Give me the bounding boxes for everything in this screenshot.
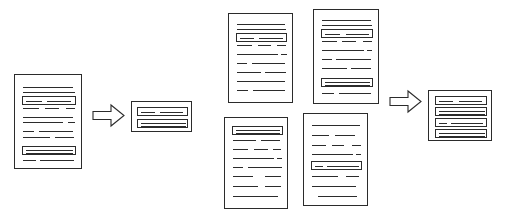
highlighted-row <box>137 119 188 128</box>
text-line <box>261 140 280 141</box>
text-line <box>277 45 286 46</box>
text-line <box>233 140 256 141</box>
text-line <box>312 125 360 126</box>
text-line <box>351 68 371 69</box>
highlighted-row <box>435 96 487 105</box>
multi-source-document-bottom-right[interactable] <box>303 113 368 206</box>
text-line <box>336 59 371 60</box>
highlighted-row <box>232 126 283 135</box>
highlighted-row <box>435 107 487 116</box>
text-line <box>23 108 39 109</box>
text-line <box>233 149 248 150</box>
diagram-canvas: Document summarization flow <box>0 0 510 223</box>
text-line <box>265 72 286 73</box>
text-line <box>23 122 63 123</box>
text-line <box>23 160 36 161</box>
text-line <box>277 158 282 159</box>
highlighted-row <box>137 107 188 116</box>
text-line <box>68 122 75 123</box>
text-line <box>335 135 355 136</box>
text-line <box>281 54 287 55</box>
text-line <box>233 167 243 168</box>
text-line <box>318 196 357 197</box>
text-line <box>233 186 258 187</box>
highlighted-text-line <box>141 123 186 124</box>
text-line <box>273 149 281 150</box>
text-line <box>237 45 252 46</box>
text-line <box>237 29 286 30</box>
highlighted-row <box>22 146 76 155</box>
highlighted-text-line <box>325 85 370 86</box>
text-line <box>352 145 361 146</box>
highlighted-text-line <box>439 123 447 124</box>
text-line <box>252 63 285 64</box>
text-line <box>237 72 261 73</box>
text-line <box>23 87 73 88</box>
text-line <box>312 154 353 155</box>
text-line <box>312 135 329 136</box>
text-line <box>312 145 326 146</box>
text-line <box>356 154 361 155</box>
text-line <box>322 93 334 94</box>
text-line <box>254 149 268 150</box>
text-line <box>265 176 281 177</box>
highlighted-row <box>22 96 76 105</box>
text-line <box>237 90 248 91</box>
multi-source-document-top-left[interactable] <box>228 13 293 103</box>
text-line <box>322 41 337 42</box>
text-line <box>322 20 371 21</box>
text-line <box>23 137 50 138</box>
highlighted-text-line <box>160 112 183 113</box>
text-line <box>363 41 372 42</box>
text-line <box>55 137 74 138</box>
text-line <box>265 186 281 187</box>
text-line <box>258 45 271 46</box>
text-line <box>233 196 278 197</box>
text-line <box>66 108 75 109</box>
highlighted-text-line <box>346 34 369 35</box>
text-line <box>23 92 75 93</box>
highlighted-text-line <box>439 133 485 134</box>
arrow-multi-to-summary <box>389 89 422 114</box>
highlighted-row <box>321 29 373 38</box>
highlighted-text-line <box>141 126 186 127</box>
highlighted-text-line <box>259 38 283 39</box>
highlighted-row <box>321 78 373 87</box>
highlighted-text-line <box>327 166 359 167</box>
arrow-single-to-summary <box>92 103 125 128</box>
highlighted-text-line <box>459 101 482 102</box>
text-line <box>322 59 332 60</box>
highlighted-text-line <box>439 114 485 115</box>
text-line <box>23 117 73 118</box>
highlighted-row <box>435 118 487 127</box>
text-line <box>322 50 364 51</box>
multi-document-summary[interactable] <box>428 90 492 141</box>
text-line <box>237 63 247 64</box>
highlighted-text-line <box>26 101 42 102</box>
highlighted-text-line <box>451 123 483 124</box>
highlighted-text-line <box>240 38 254 39</box>
text-line <box>233 176 253 177</box>
text-line <box>312 186 356 187</box>
single-document-summary[interactable] <box>131 101 192 132</box>
highlighted-text-line <box>236 130 280 131</box>
multi-source-document-top-right[interactable] <box>313 9 379 104</box>
highlighted-text-line <box>141 112 155 113</box>
text-line <box>237 54 278 55</box>
text-line <box>322 25 372 26</box>
text-line <box>23 131 34 132</box>
text-line <box>342 41 356 42</box>
highlighted-text-line <box>439 111 485 112</box>
text-line <box>237 24 285 25</box>
highlighted-text-line <box>439 101 453 102</box>
text-line <box>253 90 285 91</box>
highlighted-text-line <box>26 150 73 151</box>
source-document[interactable] <box>14 74 82 169</box>
text-line <box>237 81 285 82</box>
text-line <box>332 145 344 146</box>
text-line <box>233 158 274 159</box>
text-line <box>367 50 372 51</box>
highlighted-row <box>236 33 287 42</box>
text-line <box>40 160 74 161</box>
multi-source-document-bottom-left[interactable] <box>224 117 288 209</box>
